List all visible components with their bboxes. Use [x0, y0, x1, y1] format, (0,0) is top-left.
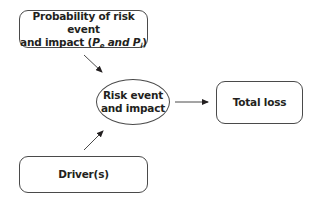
- drivers-label: Driver(s): [58, 168, 109, 181]
- drivers-node: Driver(s): [19, 156, 148, 193]
- probability-line2-prefix: and impact (: [20, 36, 92, 48]
- total-loss-label: Total loss: [233, 96, 287, 109]
- probability-line1: Probability of risk event: [20, 10, 147, 36]
- probability-node: Probability of risk event and impact (Pe…: [19, 10, 148, 48]
- and-word: and: [104, 36, 132, 48]
- p-symbol: P: [92, 36, 100, 48]
- risk-event-line2: and impact: [101, 102, 165, 115]
- probability-line2-suffix: ): [142, 36, 147, 48]
- p-e-symbol: Pe and Pi: [92, 36, 142, 48]
- probability-line2: and impact (Pe and Pi): [20, 36, 147, 49]
- risk-event-node: Risk event and impact: [96, 79, 170, 125]
- risk-diagram: Probability of risk event and impact (Pe…: [0, 0, 317, 203]
- arrow-probability-to-risk: [84, 55, 102, 72]
- arrow-driver-to-risk: [84, 131, 103, 150]
- total-loss-node: Total loss: [216, 81, 303, 124]
- risk-event-line1: Risk event: [101, 89, 165, 102]
